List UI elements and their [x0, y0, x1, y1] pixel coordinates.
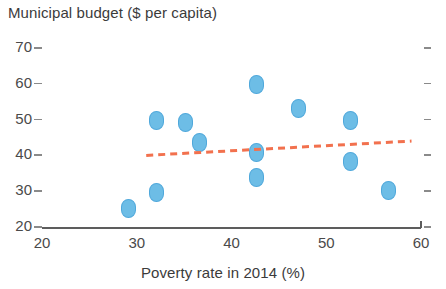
y-tick-mark-right-70 — [424, 47, 431, 49]
y-tick-label-70: 70 — [2, 38, 32, 55]
y-tick-label-20: 20 — [2, 217, 32, 234]
x-tick-label-40: 40 — [212, 234, 252, 251]
y-tick-label-30: 30 — [2, 181, 32, 198]
y-tick-mark-right-20 — [424, 226, 431, 228]
x-axis-line — [42, 227, 421, 229]
y-tick-mark-right-30 — [424, 190, 431, 192]
data-point — [249, 143, 264, 162]
data-point — [291, 99, 306, 118]
y-tick-label-50: 50 — [2, 110, 32, 127]
y-tick-mark-right-60 — [424, 83, 431, 85]
data-point — [149, 111, 164, 130]
y-tick-mark-30 — [34, 190, 42, 192]
data-point — [343, 111, 358, 130]
data-point — [192, 133, 207, 152]
data-point — [121, 199, 136, 218]
data-point — [249, 168, 264, 187]
y-tick-mark-right-50 — [424, 119, 431, 121]
x-tick-label-60: 60 — [401, 234, 441, 251]
y-tick-mark-40 — [34, 154, 42, 156]
data-point — [381, 181, 396, 200]
x-axis-end-cap — [420, 221, 422, 228]
data-point — [249, 75, 264, 94]
data-point — [149, 183, 164, 202]
x-tick-label-30: 30 — [117, 234, 157, 251]
y-tick-label-40: 40 — [2, 145, 32, 162]
y-tick-mark-60 — [34, 83, 42, 85]
y-tick-label-60: 60 — [2, 74, 32, 91]
x-tick-label-50: 50 — [306, 234, 346, 251]
y-axis-title: Municipal budget ($ per capita) — [8, 4, 217, 21]
y-tick-mark-right-40 — [424, 154, 431, 156]
data-point — [343, 152, 358, 171]
scatter-plot-figure: Municipal budget ($ per capita) 20304050… — [0, 0, 446, 289]
x-axis-title: Poverty rate in 2014 (%) — [0, 264, 446, 281]
y-tick-mark-50 — [34, 119, 42, 121]
x-tick-label-20: 20 — [22, 234, 62, 251]
data-point — [178, 113, 193, 132]
y-tick-mark-70 — [34, 47, 42, 49]
y-tick-mark-20 — [34, 226, 42, 228]
